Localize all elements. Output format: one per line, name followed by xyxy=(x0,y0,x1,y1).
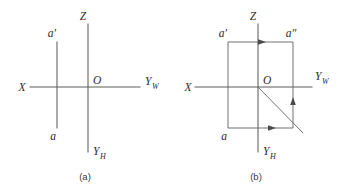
panel-a-yw-subscript: W xyxy=(152,82,160,91)
panel-b-group: Z X O Y W Y H a′ a″ a (b) xyxy=(183,10,330,182)
panel-a-z-label: Z xyxy=(80,10,87,22)
panel-b-point-top-label: a xyxy=(221,130,227,142)
panel-a-x-label: X xyxy=(17,81,26,93)
panel-b-yh-subscript: H xyxy=(269,152,277,161)
panel-b-top-arrowhead xyxy=(258,39,266,45)
diagram-svg: Z X O Y W Y H a′ a (a) xyxy=(0,0,340,194)
panel-b-point-front-label: a′ xyxy=(219,27,228,39)
panel-b-x-label: X xyxy=(183,81,192,93)
projection-figure: Z X O Y W Y H a′ a (a) xyxy=(0,0,340,194)
panel-a-yh-subscript: H xyxy=(99,152,107,161)
panel-b-bottom-arrowhead xyxy=(268,125,276,131)
panel-a-point-top-label: a xyxy=(50,130,56,142)
panel-b-origin-label: O xyxy=(263,74,272,86)
panel-b-yw-subscript: W xyxy=(322,77,330,86)
panel-a-point-front-label: a′ xyxy=(48,27,57,39)
panel-b-right-arrowhead xyxy=(290,97,296,105)
panel-a-group: Z X O Y W Y H a′ a (a) xyxy=(17,10,160,182)
panel-b-point-side-label: a″ xyxy=(286,27,297,39)
panel-a-caption: (a) xyxy=(79,171,91,182)
panel-a-origin-label: O xyxy=(93,74,102,86)
panel-b-caption: (b) xyxy=(250,171,262,182)
panel-b-z-label: Z xyxy=(250,10,257,22)
panel-b-bisector-line xyxy=(258,87,303,133)
